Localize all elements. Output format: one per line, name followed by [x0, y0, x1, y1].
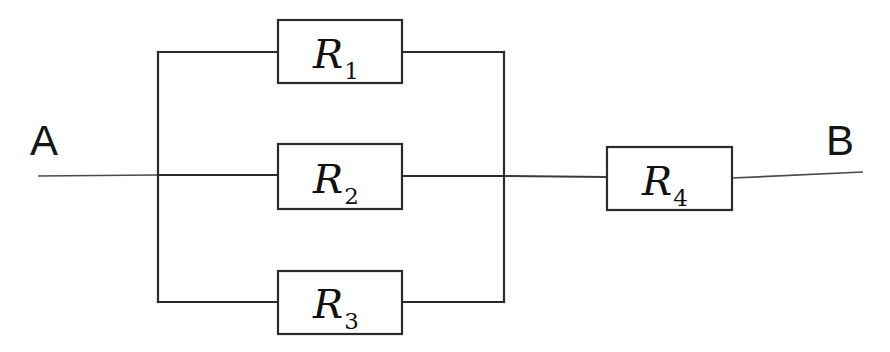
- series-connection-wire: [504, 176, 607, 177]
- circuit-diagram: R1 R2 R3 R4 A B: [0, 0, 890, 352]
- terminal-b-lead-wire: [732, 172, 863, 178]
- circuit-canvas: R1 R2 R3 R4 A B: [0, 0, 890, 352]
- resistor-r1-label-subscript: 1: [344, 58, 359, 84]
- terminal-label-b: B: [826, 117, 854, 164]
- resistor-r4-label-subscript: 4: [673, 185, 688, 211]
- resistor-r1-label-base: R: [312, 31, 343, 77]
- terminal-label-a: A: [30, 117, 58, 164]
- resistor-r2[interactable]: R2: [278, 144, 402, 209]
- resistor-r3-label-subscript: 3: [344, 308, 359, 334]
- resistor-r1[interactable]: R1: [278, 20, 402, 84]
- resistor-r2-label-subscript: 2: [344, 183, 359, 209]
- terminal-a-lead-wire: [38, 175, 158, 176]
- resistor-r2-label-base: R: [312, 156, 343, 202]
- resistor-r3[interactable]: R3: [278, 271, 402, 334]
- resistor-r3-label-base: R: [312, 281, 343, 327]
- resistor-r4[interactable]: R4: [607, 147, 732, 211]
- resistor-r4-label-base: R: [641, 158, 672, 204]
